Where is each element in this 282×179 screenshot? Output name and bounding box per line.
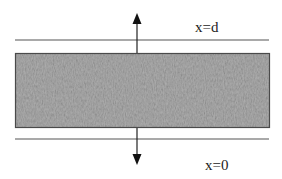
up-arrow-icon xyxy=(133,13,142,53)
slab xyxy=(15,53,270,128)
down-arrow-icon xyxy=(133,128,142,165)
bottom-boundary-label: x=0 xyxy=(205,158,228,173)
top-boundary-label: x=d xyxy=(195,20,218,35)
slab-diagram xyxy=(0,0,282,179)
